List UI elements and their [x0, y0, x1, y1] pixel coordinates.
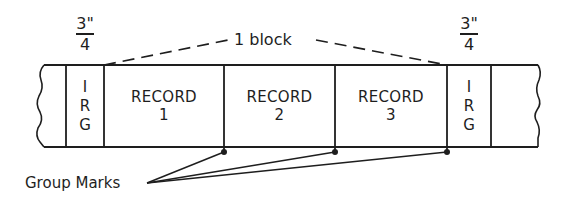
group-mark-leader	[147, 152, 335, 183]
block-span-right-dash	[316, 40, 447, 65]
record-1: RECORD 1	[104, 88, 224, 124]
record-2: RECORD 2	[224, 88, 335, 124]
irg-letter: I	[66, 78, 104, 97]
record-word: RECORD	[104, 88, 224, 106]
irg-left: I R G	[66, 78, 104, 135]
record-number: 2	[224, 106, 335, 124]
irg-letter: I	[450, 78, 488, 97]
left-torn-edge	[37, 65, 44, 147]
block-span-left-dash	[104, 40, 228, 65]
block-label: 1 block	[232, 30, 294, 49]
gap-size-denominator: 4	[454, 37, 484, 53]
irg-right: I R G	[450, 78, 488, 135]
gap-size-denominator: 4	[70, 37, 100, 53]
group-mark-leader	[147, 152, 447, 183]
irg-letter: G	[66, 116, 104, 135]
record-word: RECORD	[335, 88, 447, 106]
right-torn-edge	[535, 65, 540, 147]
record-word: RECORD	[224, 88, 335, 106]
gap-size-left: 3" 4	[70, 16, 100, 53]
group-marks-label: Group Marks	[25, 174, 120, 192]
record-3: RECORD 3	[335, 88, 447, 124]
gap-size-numerator: 3"	[70, 16, 100, 32]
record-number: 3	[335, 106, 447, 124]
irg-letter: G	[450, 116, 488, 135]
irg-letter: R	[450, 97, 488, 116]
irg-letter: R	[66, 97, 104, 116]
gap-size-numerator: 3"	[454, 16, 484, 32]
gap-size-right: 3" 4	[454, 16, 484, 53]
record-number: 1	[104, 106, 224, 124]
